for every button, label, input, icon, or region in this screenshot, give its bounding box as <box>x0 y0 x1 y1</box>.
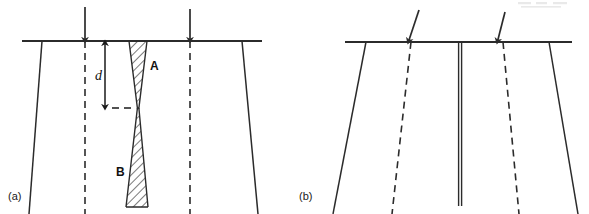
zone-b-label: B <box>116 165 125 179</box>
scan-speck-1 <box>518 2 531 4</box>
scan-speck-4 <box>521 6 561 8</box>
figure-root: A B d (a) <box>0 0 589 214</box>
panel-b-closed-crack-sliver <box>459 42 462 206</box>
panel-a-label: (a) <box>8 190 21 202</box>
panel-a-left-outer-edge <box>29 41 42 214</box>
panel-a-zone-b <box>120 104 160 212</box>
panel-b-right-outer-edge <box>549 42 578 214</box>
scan-speck-2 <box>536 2 547 4</box>
panel-a: A B d (a) <box>8 7 262 214</box>
panel-b-right-dashed-reference <box>503 42 519 214</box>
panel-b-right-load-arrow <box>498 12 505 41</box>
scan-speck-3 <box>553 2 567 4</box>
panel-b-left-load-arrow <box>409 10 419 41</box>
panel-a-zone-a <box>120 38 160 114</box>
panel-b-left-outer-edge <box>333 42 366 214</box>
scan-artifacts <box>518 2 567 8</box>
panel-b-left-dashed-reference <box>392 42 411 214</box>
panel-b-label: (b) <box>299 190 312 202</box>
figure-canvas: A B d (a) <box>0 0 589 214</box>
zone-a-label: A <box>150 59 159 73</box>
depth-dimension-label: d <box>95 68 103 83</box>
panel-a-right-outer-edge <box>242 41 258 214</box>
panel-b: (b) <box>299 10 578 214</box>
